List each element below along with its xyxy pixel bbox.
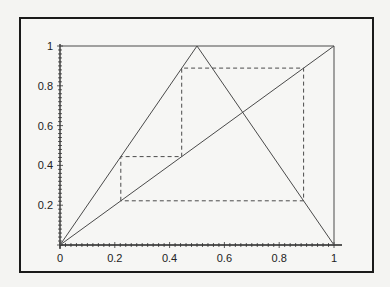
x-tick-label: 0.2 xyxy=(107,252,122,264)
x-tick-label: 0.6 xyxy=(217,252,232,264)
x-tick-label: 1 xyxy=(331,252,337,264)
y-tick-label: 0.6 xyxy=(38,120,53,132)
y-tick-label: 0.2 xyxy=(38,199,53,211)
axes xyxy=(57,44,342,249)
y-tick-label: 1 xyxy=(47,40,53,52)
y-tick-label: 0.4 xyxy=(38,159,53,171)
x-tick-label: 0.8 xyxy=(272,252,287,264)
x-tick-label: 0.4 xyxy=(162,252,177,264)
plot-series xyxy=(60,46,334,245)
y-tick-label: 0.8 xyxy=(38,80,53,92)
series-identity-y-x xyxy=(60,46,334,245)
cobweb-chart: 00.20.40.60.810.20.40.60.81 xyxy=(0,0,390,287)
x-tick-label: 0 xyxy=(57,252,63,264)
